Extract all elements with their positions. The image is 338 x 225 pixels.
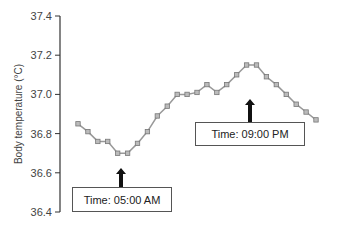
data-point-marker xyxy=(165,104,169,108)
data-point-marker xyxy=(205,82,209,86)
y-tick-label: 36.8 xyxy=(31,128,52,140)
data-point-marker xyxy=(175,92,179,96)
arrow-up-icon xyxy=(115,168,127,187)
arrow-up-icon xyxy=(244,99,256,122)
data-point-marker xyxy=(86,129,90,133)
data-point-marker xyxy=(225,82,229,86)
data-point-marker xyxy=(254,63,258,67)
data-point-marker xyxy=(125,151,129,155)
data-point-marker xyxy=(244,63,248,67)
y-tick-label: 36.4 xyxy=(31,206,52,218)
y-tick-label: 37.0 xyxy=(31,88,52,100)
data-point-marker xyxy=(264,75,268,79)
data-point-marker xyxy=(284,92,288,96)
data-point-marker xyxy=(115,151,119,155)
data-point-marker xyxy=(96,139,100,143)
data-point-marker xyxy=(304,110,308,114)
data-point-marker xyxy=(135,141,139,145)
data-point-marker xyxy=(314,118,318,122)
data-point-marker xyxy=(215,90,219,94)
annotation-morning-minimum: Time: 05:00 AM xyxy=(72,187,172,212)
y-tick-label: 37.4 xyxy=(31,10,52,22)
data-point-marker xyxy=(185,92,189,96)
data-point-marker xyxy=(106,139,110,143)
data-point-marker xyxy=(76,122,80,126)
annotation-evening-maximum: Time: 09:00 PM xyxy=(195,122,305,146)
data-point-marker xyxy=(294,102,298,106)
data-point-marker xyxy=(145,129,149,133)
y-axis-ticks: 36.436.636.837.037.237.4 xyxy=(31,10,60,218)
data-point-marker xyxy=(274,82,278,86)
data-point-marker xyxy=(155,114,159,118)
data-point-marker xyxy=(234,73,238,77)
y-tick-label: 36.6 xyxy=(31,167,52,179)
y-tick-label: 37.2 xyxy=(31,49,52,61)
y-axis-title: Body temperature (°C) xyxy=(13,64,24,164)
data-point-marker xyxy=(195,90,199,94)
